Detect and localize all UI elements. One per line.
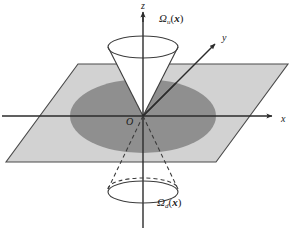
lower-cone-label: Ωd(x): [157, 197, 181, 210]
x-axis-label: x: [281, 114, 285, 124]
upper-cone-label: Ωu(x): [159, 13, 183, 26]
cone-diagram-figure: z x y O Ωu(x) Ωd(x): [0, 0, 295, 228]
z-axis-label: z: [141, 1, 145, 11]
upper-cone-omega-symbol: Ω: [159, 12, 167, 24]
origin-label: O: [126, 117, 133, 127]
diagram-canvas: [0, 0, 295, 228]
y-axis-label: y: [222, 33, 226, 43]
upper-cone-close-paren: ): [180, 12, 184, 24]
lower-cone-close-paren: ): [178, 196, 182, 208]
lower-cone-omega-symbol: Ω: [157, 196, 165, 208]
